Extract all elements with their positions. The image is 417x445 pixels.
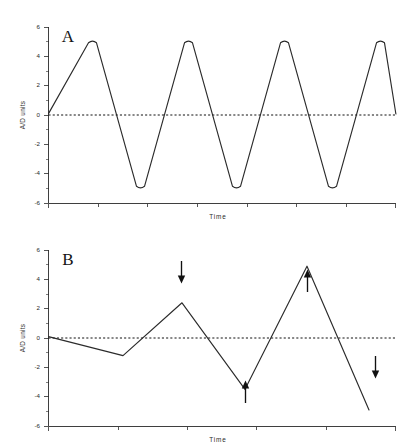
panel-a-ytick-5: -4	[34, 169, 40, 176]
figure-two-panel-waveforms: 6 4 2 0 -2 -4 -6 A	[0, 0, 417, 445]
panel-a-ytick-0: 6	[37, 23, 41, 30]
panel-b-ytick-2: 2	[37, 304, 41, 311]
panel-b-ytick-3: 0	[37, 334, 41, 341]
panel-a-ytick-6: -6	[34, 199, 40, 206]
panel-b-ytick-5: -4	[34, 392, 40, 399]
panel-b-x-axis-title: Time	[209, 436, 227, 443]
panel-b-x-ticks	[49, 427, 396, 432]
panel-a-x-axis-title: Time	[209, 213, 227, 220]
panel-b-y-axis-title: A/D units	[19, 324, 26, 353]
panel-b-ytick-0: 6	[37, 246, 41, 253]
panel-a-ytick-4: -2	[34, 140, 40, 147]
panel-b: 6 4 2 0 -2 -4 -6	[0, 222, 417, 445]
panel-a-y-ticks	[44, 27, 49, 203]
sample-marker-2	[178, 261, 185, 284]
panel-b-y-ticks	[44, 250, 49, 426]
sample-marker-5	[372, 356, 379, 379]
panel-a-x-ticks	[49, 204, 396, 209]
panel-a-ytick-2: 2	[37, 81, 41, 88]
panel-b-letter: B	[62, 250, 73, 269]
panel-b-ytick-1: 4	[37, 275, 41, 282]
panel-a: 6 4 2 0 -2 -4 -6 A	[0, 0, 417, 222]
panel-a-ytick-1: 4	[37, 52, 41, 59]
panel-a-y-axis-title: A/D units	[19, 101, 26, 130]
panel-a-ytick-3: 0	[37, 111, 41, 118]
panel-b-ytick-6: -6	[34, 422, 40, 429]
panel-b-ytick-4: -2	[34, 363, 40, 370]
panel-a-letter: A	[62, 27, 75, 46]
